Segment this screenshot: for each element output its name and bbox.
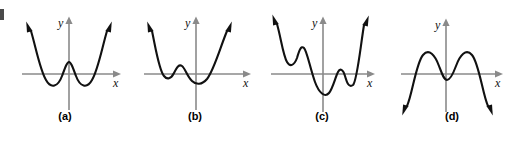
graph-panel-a: y x (a) — [0, 0, 130, 141]
y-axis-label-c: y — [311, 16, 318, 30]
polynomial-graphs-figure: y x (a) y x (b) — [0, 0, 519, 141]
panel-label-a: (a) — [0, 110, 130, 122]
graph-panel-c: y x (c) — [257, 0, 387, 141]
panel-label-b: (b) — [130, 110, 260, 122]
graph-panel-b: y x (b) — [130, 0, 260, 141]
x-axis-label-b: x — [242, 76, 249, 90]
y-axis-b — [192, 17, 199, 111]
x-axis-b — [144, 70, 251, 77]
x-axis-a — [22, 70, 121, 77]
curve-d — [402, 52, 493, 115]
graph-panel-d: y x (d) — [385, 0, 515, 141]
y-axis-label-a: y — [57, 16, 64, 30]
panel-label-d: (d) — [385, 110, 519, 122]
x-axis-label-c: x — [366, 76, 373, 90]
y-axis-d — [442, 19, 449, 113]
x-axis-label-a: x — [112, 76, 119, 90]
x-axis-label-d: x — [494, 76, 501, 90]
curve-c — [272, 15, 368, 95]
y-axis-c — [319, 17, 326, 113]
y-axis-label-d: y — [434, 18, 441, 32]
y-axis-label-b: y — [184, 16, 191, 30]
panel-label-c: (c) — [257, 110, 387, 122]
